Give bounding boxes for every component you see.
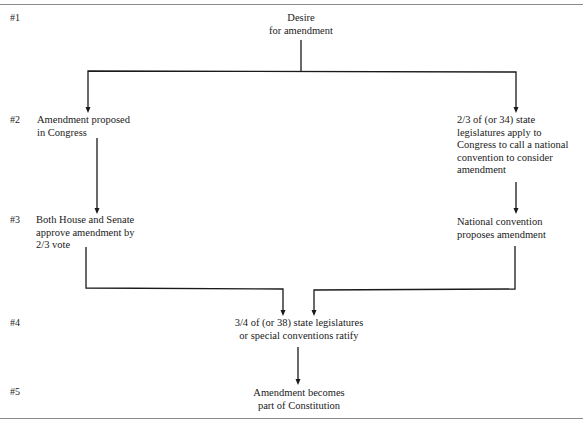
node-line: Amendment proposed xyxy=(37,114,187,127)
node-house-senate-approve: Both House and Senate approve amendment … xyxy=(36,214,186,252)
node-line: or special conventions ratify xyxy=(209,330,389,343)
node-line: 3/4 of (or 38) state legislatures xyxy=(209,317,389,330)
node-line: convention to consider xyxy=(457,152,583,165)
node-state-legislatures-apply: 2/3 of (or 34) state legislatures apply … xyxy=(457,114,583,177)
node-line: National convention xyxy=(457,216,583,229)
node-ratification: 3/4 of (or 38) state legislatures or spe… xyxy=(209,317,389,342)
node-line: 2/3 of (or 34) state xyxy=(457,114,583,127)
node-line: legislatures apply to xyxy=(457,127,583,140)
node-line: Amendment becomes xyxy=(229,387,369,400)
node-line: approve amendment by xyxy=(36,227,186,240)
node-amendment-becomes-part: Amendment becomes part of Constitution xyxy=(229,387,369,412)
node-line: in Congress xyxy=(37,127,187,140)
node-line: Congress to call a national xyxy=(457,139,583,152)
node-line: proposes amendment xyxy=(457,229,583,242)
node-line: Both House and Senate xyxy=(36,214,186,227)
node-line: 2/3 vote xyxy=(36,239,186,252)
node-national-convention-proposes: National convention proposes amendment xyxy=(457,216,583,241)
connector-lines xyxy=(0,0,583,425)
node-amendment-proposed-in-congress: Amendment proposed in Congress xyxy=(37,114,187,139)
node-line: Desire xyxy=(251,12,351,25)
node-line: for amendment xyxy=(251,25,351,38)
node-line: amendment xyxy=(457,164,583,177)
node-desire-for-amendment: Desire for amendment xyxy=(251,12,351,37)
node-line: part of Constitution xyxy=(229,400,369,413)
